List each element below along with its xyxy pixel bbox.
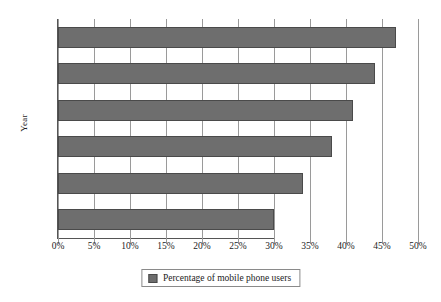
bar xyxy=(58,100,353,121)
bar xyxy=(58,173,303,194)
gridline xyxy=(310,19,311,244)
gridline xyxy=(346,19,347,244)
gridline xyxy=(418,19,419,244)
x-axis-tick-label: 35% xyxy=(290,241,330,251)
bar-row xyxy=(58,63,375,84)
bar-row xyxy=(58,173,303,194)
gridline xyxy=(382,19,383,244)
plot-area xyxy=(58,19,418,238)
legend-label: Percentage of mobile phone users xyxy=(163,273,291,283)
x-axis-tick-label: 20% xyxy=(182,241,222,251)
bar-row xyxy=(58,209,274,230)
bar-chart: Year 20142015*2016*2017*2018*2019 0%5%10… xyxy=(0,0,441,302)
x-axis-tick-label: 0% xyxy=(38,241,78,251)
x-axis-tick-label: 30% xyxy=(254,241,294,251)
x-axis-tick-label: 10% xyxy=(110,241,150,251)
x-axis-tick-label: 50% xyxy=(398,241,438,251)
x-axis-tick-label: 45% xyxy=(362,241,402,251)
chart-legend: Percentage of mobile phone users xyxy=(141,269,300,287)
bar xyxy=(58,136,332,157)
bar xyxy=(58,63,375,84)
x-axis-tick-label: 15% xyxy=(146,241,186,251)
gridline xyxy=(274,19,275,244)
x-axis-tick-label: 5% xyxy=(74,241,114,251)
y-axis-title: Year xyxy=(19,103,29,143)
x-axis-tick-label: 25% xyxy=(218,241,258,251)
legend-swatch-icon xyxy=(148,274,157,283)
bar-row xyxy=(58,136,332,157)
bar xyxy=(58,209,274,230)
x-axis-tick-label: 40% xyxy=(326,241,366,251)
bar xyxy=(58,27,396,48)
bar-row xyxy=(58,27,396,48)
bar-row xyxy=(58,100,353,121)
